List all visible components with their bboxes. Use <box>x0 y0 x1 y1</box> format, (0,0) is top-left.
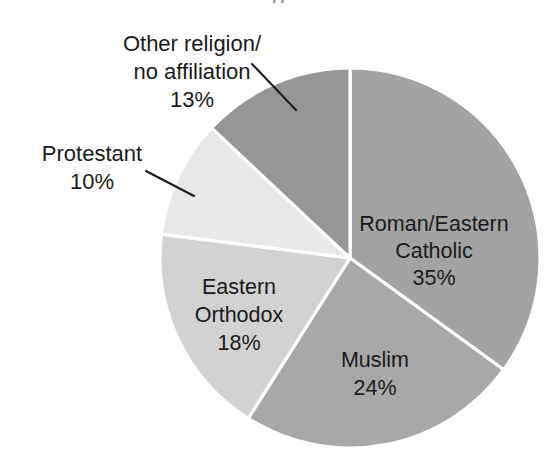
label-orthodox-percent: 18% <box>217 331 260 355</box>
label-other-religion-line2: no affiliation <box>133 59 250 84</box>
label-other-religion-percent: 13% <box>170 87 214 112</box>
label-catholic-line2: Catholic <box>395 239 473 263</box>
label-muslim-line1: Muslim <box>341 348 409 372</box>
label-orthodox-line1: Eastern <box>202 275 276 299</box>
label-protestant-line1: Protestant <box>42 141 142 166</box>
pie-chart-figure: g Roman/Eastern Catholic 35% Muslim 24% … <box>0 0 558 467</box>
label-orthodox-line2: Orthodox <box>195 303 284 327</box>
label-catholic-line1: Roman/Eastern <box>359 212 508 236</box>
outside-label-protestant: Protestant 10% <box>42 141 142 194</box>
label-protestant-percent: 10% <box>70 169 114 194</box>
outside-label-other-religion: Other religion/ no affiliation 13% <box>123 31 262 112</box>
label-muslim-percent: 24% <box>353 376 396 400</box>
pie-slices <box>160 68 540 448</box>
pie-chart-canvas: Roman/Eastern Catholic 35% Muslim 24% Ea… <box>0 0 558 467</box>
label-other-religion-line1: Other religion/ <box>123 31 262 56</box>
label-catholic-percent: 35% <box>412 266 455 290</box>
